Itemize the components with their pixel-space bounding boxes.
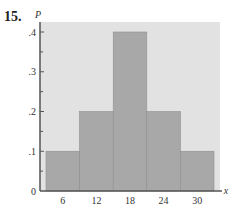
y-tick-label: .2 — [29, 106, 37, 117]
histogram-chart: 0.1.2.3.4 612182430 P x — [0, 0, 235, 211]
x-tick-label: 30 — [192, 195, 202, 206]
bar-30 — [180, 151, 214, 191]
y-axis-label: P — [34, 9, 41, 20]
x-tick-label: 12 — [91, 195, 101, 206]
x-tick-label: 6 — [60, 195, 65, 206]
x-tick-label: 18 — [125, 195, 135, 206]
bar-6 — [46, 151, 80, 191]
y-tick-label: 0 — [31, 186, 36, 197]
bar-18 — [113, 32, 147, 191]
y-tick-label: .4 — [29, 27, 37, 38]
y-tick-label: .3 — [29, 66, 37, 77]
x-axis-label: x — [223, 185, 229, 196]
x-ticks: 612182430 — [60, 195, 202, 206]
y-ticks: 0.1.2.3.4 — [29, 27, 45, 197]
y-tick-label: .1 — [29, 146, 37, 157]
bar-24 — [147, 112, 181, 192]
bar-12 — [80, 112, 114, 192]
x-tick-label: 24 — [159, 195, 169, 206]
